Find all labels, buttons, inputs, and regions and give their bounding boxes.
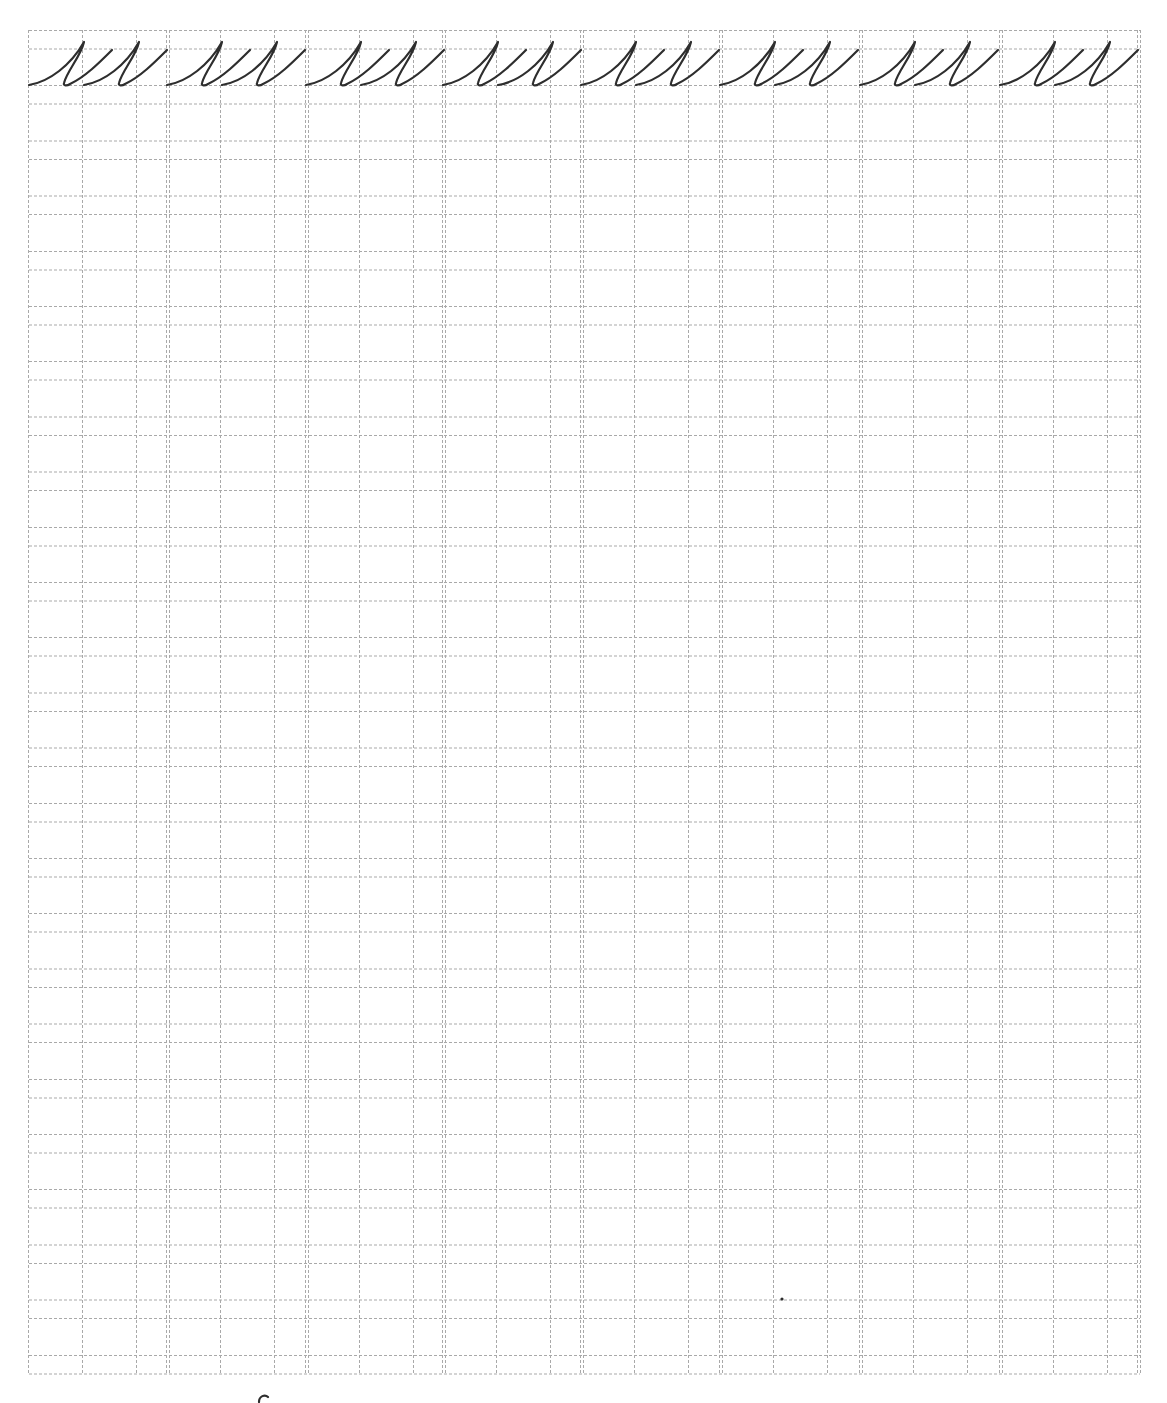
horizontal-guide-lines: [29, 31, 1140, 1375]
stray-dot: [780, 1297, 783, 1300]
vertical-guide-lines: [29, 30, 1141, 1374]
writing-grid: [0, 0, 1167, 1403]
glyph-fragment: [259, 1396, 268, 1402]
stray-marks: [259, 1297, 784, 1402]
